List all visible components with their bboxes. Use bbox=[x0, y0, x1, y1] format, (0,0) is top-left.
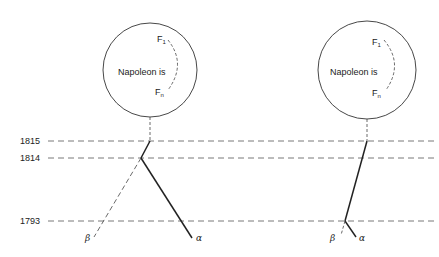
left-alpha-label: α bbox=[196, 233, 202, 243]
left-beta-label: β bbox=[84, 233, 90, 243]
left-alpha-branch bbox=[141, 158, 192, 238]
left-f1-label: F1 bbox=[157, 34, 167, 45]
right-trunk bbox=[345, 141, 367, 221]
left-fn-label: Fn bbox=[155, 87, 164, 98]
left-node: Napoleon is F1 Fn β α bbox=[84, 23, 202, 243]
year-label-1793: 1793 bbox=[20, 216, 40, 226]
right-fn-label: Fn bbox=[372, 88, 381, 99]
left-f-arc bbox=[168, 40, 178, 90]
right-alpha-label: α bbox=[359, 233, 365, 243]
year-label-1814: 1814 bbox=[20, 153, 40, 163]
right-f-arc bbox=[384, 40, 395, 90]
left-beta-branch bbox=[94, 158, 141, 237]
right-alpha-branch bbox=[345, 221, 356, 237]
napoleon-diagram: 1815 1814 1793 Napoleon is F1 Fn β α Nap… bbox=[0, 0, 439, 257]
right-node-text: Napoleon is bbox=[330, 67, 378, 77]
right-beta-label: β bbox=[329, 233, 335, 243]
right-node: Napoleon is F1 Fn β α bbox=[318, 21, 416, 243]
right-beta-branch bbox=[341, 221, 345, 235]
year-label-1815: 1815 bbox=[20, 136, 40, 146]
left-trunk bbox=[141, 141, 150, 158]
right-f1-label: F1 bbox=[372, 37, 382, 48]
left-node-text: Napoleon is bbox=[118, 67, 166, 77]
